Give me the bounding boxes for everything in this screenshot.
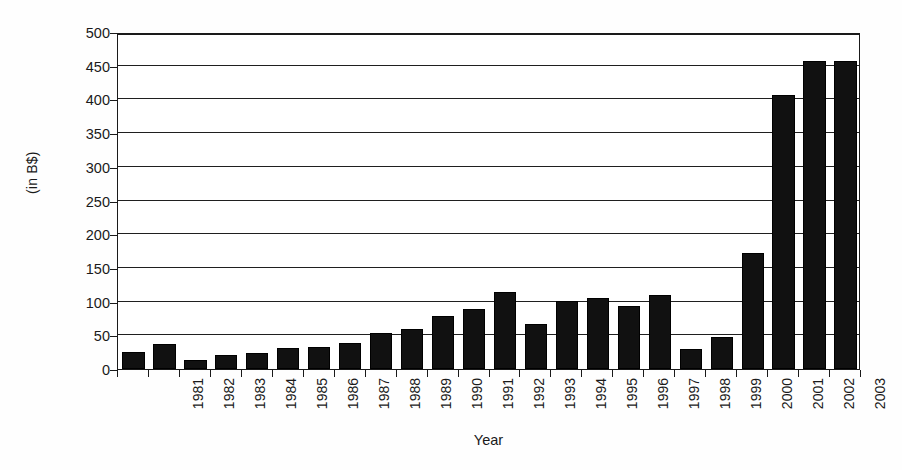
x-axis-tick-mark	[334, 370, 335, 377]
bar	[680, 349, 702, 369]
x-axis-tick-mark	[303, 370, 304, 377]
bar-series	[118, 35, 859, 369]
x-axis-tick-mark	[643, 370, 644, 377]
y-axis-title: (in B$)	[24, 74, 48, 194]
y-axis-tick-label: 250	[64, 194, 110, 209]
y-axis-tick-mark	[110, 202, 117, 203]
bar	[834, 61, 856, 369]
bar	[215, 355, 237, 369]
y-axis-tick-mark	[110, 100, 117, 101]
x-axis-tick-label: 1993	[562, 378, 578, 430]
bar	[463, 309, 485, 369]
x-axis-tick-label: 1982	[221, 378, 237, 430]
bar	[803, 61, 825, 369]
bar	[370, 333, 392, 369]
y-axis-tick-label: 300	[64, 161, 110, 176]
x-axis-tick-mark	[210, 370, 211, 377]
x-axis-tick-mark	[458, 370, 459, 377]
x-axis-tick-label: 1987	[376, 378, 392, 430]
x-axis-tick-mark	[767, 370, 768, 377]
y-axis-tick-label: 50	[64, 329, 110, 344]
x-axis-tick-mark	[550, 370, 551, 377]
x-axis-tick-label: 1984	[283, 378, 299, 430]
y-axis-tick-mark	[110, 303, 117, 304]
x-axis-tick-mark	[365, 370, 366, 377]
x-axis-tick-label: 2002	[841, 378, 857, 430]
bar	[649, 295, 671, 369]
y-axis-tick-label: 400	[64, 93, 110, 108]
y-axis-tick-mark	[110, 33, 117, 34]
y-axis-tick-mark	[110, 370, 117, 371]
x-axis-tick-mark	[241, 370, 242, 377]
x-axis-tick-label: 1992	[531, 378, 547, 430]
x-axis-tick-labels: 1981198219831984198519861987198819891990…	[117, 378, 860, 430]
bar	[153, 344, 175, 369]
x-axis-tick-mark	[179, 370, 180, 377]
x-axis-tick-label: 1994	[593, 378, 609, 430]
x-axis-tick-mark	[736, 370, 737, 377]
y-axis-tick-label: 150	[64, 262, 110, 277]
bar	[432, 316, 454, 369]
bar	[618, 306, 640, 369]
x-axis-tick-label: 2000	[779, 378, 795, 430]
bar	[246, 353, 268, 369]
x-axis-tick-label: 1985	[314, 378, 330, 430]
bar	[184, 360, 206, 369]
bar	[742, 253, 764, 369]
y-axis-tick-mark	[110, 168, 117, 169]
bar	[494, 292, 516, 370]
x-axis-tick-marks	[117, 370, 860, 378]
x-axis-tick-label: 1991	[500, 378, 516, 430]
x-axis-tick-mark	[489, 370, 490, 377]
x-axis-title: Year	[117, 432, 860, 448]
bar	[556, 301, 578, 369]
x-axis-tick-label: 1990	[469, 378, 485, 430]
bar	[339, 343, 361, 369]
bar	[772, 95, 794, 369]
x-axis-tick-label: 1989	[438, 378, 454, 430]
x-axis-tick-mark	[272, 370, 273, 377]
x-axis-tick-label: 1986	[345, 378, 361, 430]
x-axis-tick-label: 1995	[624, 378, 640, 430]
bar	[711, 337, 733, 369]
x-axis-tick-label: 2001	[810, 378, 826, 430]
x-axis-tick-mark	[612, 370, 613, 377]
x-axis-tick-mark	[396, 370, 397, 377]
x-axis-tick-label: 1997	[686, 378, 702, 430]
plot-area	[117, 33, 860, 370]
x-axis-tick-label: 1996	[655, 378, 671, 430]
y-axis-tick-mark	[110, 134, 117, 135]
bar	[525, 324, 547, 369]
bar	[277, 348, 299, 369]
y-axis-tick-label: 450	[64, 59, 110, 74]
x-axis-tick-mark	[427, 370, 428, 377]
bar	[122, 352, 144, 369]
y-axis-tick-mark	[110, 67, 117, 68]
x-axis-tick-mark	[117, 370, 118, 377]
x-axis-tick-label: 1998	[717, 378, 733, 430]
y-axis-tick-label: 200	[64, 228, 110, 243]
bar	[587, 298, 609, 369]
x-axis-tick-label: 1999	[748, 378, 764, 430]
x-axis-tick-label: 2003	[872, 378, 888, 430]
y-axis-tick-mark	[110, 269, 117, 270]
x-axis-tick-label: 1988	[407, 378, 423, 430]
x-axis-tick-label: 1981	[190, 378, 206, 430]
bar-chart-figure: (in B$) 050100150200250300350400450500 1…	[0, 0, 902, 470]
x-axis-tick-mark	[581, 370, 582, 377]
x-axis-tick-mark	[519, 370, 520, 377]
x-axis-tick-mark	[705, 370, 706, 377]
y-axis-tick-label: 500	[64, 26, 110, 41]
x-axis-tick-mark	[860, 370, 861, 377]
bar	[401, 329, 423, 369]
x-axis-tick-mark	[148, 370, 149, 377]
y-axis-tick-label: 0	[64, 363, 110, 378]
x-axis-tick-mark	[798, 370, 799, 377]
y-axis-tick-label: 350	[64, 127, 110, 142]
bar	[308, 347, 330, 369]
y-axis-tick-mark	[110, 336, 117, 337]
x-axis-tick-mark	[674, 370, 675, 377]
y-axis-tick-label: 100	[64, 295, 110, 310]
y-axis-tick-labels: 050100150200250300350400450500	[58, 33, 110, 370]
y-axis-tick-mark	[110, 235, 117, 236]
